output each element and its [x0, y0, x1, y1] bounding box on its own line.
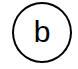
diagram-node-b: b [12, 2, 72, 63]
node-label: b [34, 17, 51, 47]
